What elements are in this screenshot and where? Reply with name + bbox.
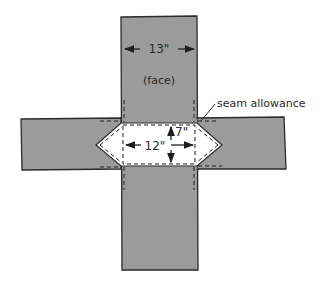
label-width-top: 13"	[149, 42, 170, 56]
label-width-center: 12"	[145, 139, 166, 153]
cross-pattern-diagram: 13" (face) seam allowance 12" 7"	[0, 0, 322, 281]
label-face: (face)	[143, 74, 175, 87]
label-seam-allowance: seam allowance	[217, 97, 306, 110]
label-height-center: 7"	[175, 125, 188, 139]
